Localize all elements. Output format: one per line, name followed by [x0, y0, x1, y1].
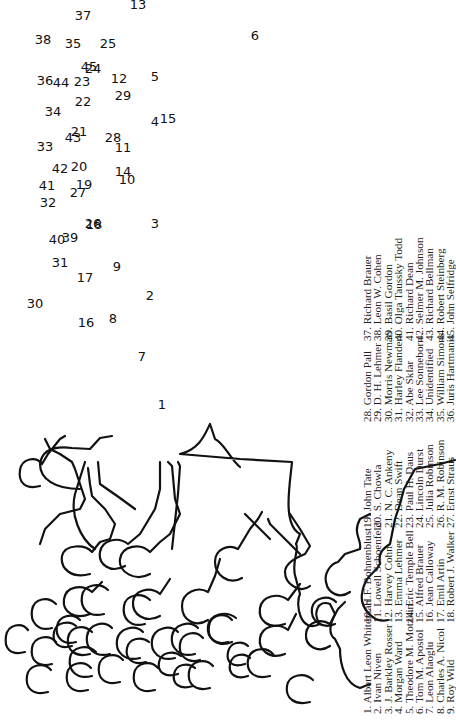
legend-column-3: 19. John Tate20. S. Chowla21. N. C. Anke…	[362, 440, 456, 528]
figure-label-41: 41	[39, 179, 56, 192]
figure-label-29: 29	[115, 89, 132, 102]
figure-label-32: 32	[40, 196, 57, 209]
figure-label-17: 17	[77, 271, 94, 284]
figure-label-7: 7	[138, 350, 146, 363]
legend-item: 18. Robert J. Walker	[445, 522, 455, 623]
legend-item: 36. Juris Hartmanis	[445, 332, 455, 422]
figure-label-30: 30	[27, 297, 44, 310]
legend-column-4: 28. Gordon Pall29. D. H. Lehmer30. Morri…	[362, 332, 456, 422]
figure-label-40: 40	[49, 233, 66, 246]
figure-label-43: 43	[65, 131, 82, 144]
figure-label-12: 12	[111, 72, 128, 85]
figure-label-3: 3	[151, 217, 159, 230]
figure-label-23: 23	[74, 75, 91, 88]
figure-label-1: 1	[158, 398, 166, 411]
figure-label-42: 42	[52, 162, 69, 175]
figure-label-13: 13	[130, 0, 147, 11]
figure-label-5: 5	[151, 70, 159, 83]
figure-label-37: 37	[75, 9, 92, 22]
figure-label-22: 22	[75, 95, 92, 108]
legend-column-5: 37. Richard Brauer38. Leon W. Cohen39. B…	[362, 238, 456, 341]
rotated-page: 1234567891011121314151617181920212223242…	[0, 0, 456, 724]
figure-label-4: 4	[151, 115, 159, 128]
figure-label-8: 8	[109, 312, 117, 325]
figure-label-16: 16	[78, 316, 95, 329]
legend-item: 27. Ernst Straus	[445, 440, 455, 528]
figure-label-31: 31	[52, 256, 69, 269]
figure-label-15: 15	[160, 112, 177, 125]
figure-label-45: 45	[81, 60, 98, 73]
figure-label-25: 25	[100, 37, 117, 50]
figure-label-38: 38	[35, 33, 52, 46]
figure-label-20: 20	[71, 160, 88, 173]
figure-label-14: 14	[115, 165, 132, 178]
figure-label-2: 2	[146, 289, 154, 302]
name-legend: 1. Albert Leon Whiteman2. Ivan Niven3. J…	[362, 0, 456, 724]
figure-label-28: 28	[105, 131, 122, 144]
figure-label-26: 26	[85, 217, 102, 230]
figure-label-6: 6	[251, 29, 259, 42]
figure-label-35: 35	[65, 37, 82, 50]
legend-item: 45. John Selfridge	[445, 238, 455, 341]
figure-label-27: 27	[70, 186, 87, 199]
figure-label-36: 36	[37, 74, 54, 87]
legend-column-2: 10. H.F. Bohnenblust11. Lowell Schoenfel…	[362, 522, 456, 623]
figure-label-9: 9	[113, 260, 121, 273]
figure-label-34: 34	[45, 105, 62, 118]
figure-label-33: 33	[37, 140, 54, 153]
figure-label-44: 44	[53, 76, 70, 89]
